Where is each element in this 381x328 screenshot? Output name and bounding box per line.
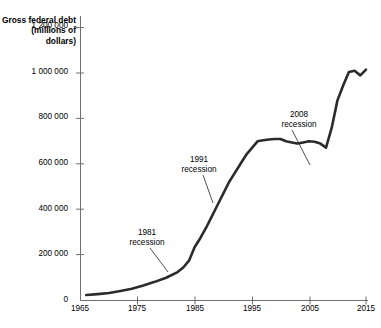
chart-figure: Gross federal debt (millions of dollars)… (0, 0, 381, 328)
gross-federal-debt-curve (86, 70, 366, 295)
debt-curve-layer (0, 0, 381, 328)
